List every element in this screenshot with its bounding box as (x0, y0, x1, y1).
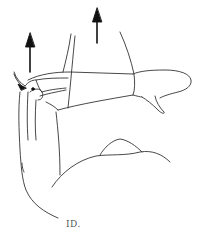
illustration: ID. (0, 0, 204, 245)
joint-dot (32, 88, 35, 91)
arrow-up-icon (93, 8, 102, 43)
arm-drawing (0, 0, 204, 245)
signature: ID. (66, 219, 81, 229)
arrow-up-icon (26, 33, 35, 72)
